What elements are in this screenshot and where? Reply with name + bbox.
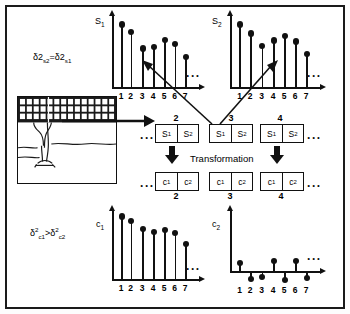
sample-box-4-cell-s1: S1 xyxy=(261,125,282,142)
chart-c1-y-axis xyxy=(112,211,114,280)
chart-s2-x-axis-arrow xyxy=(320,84,326,90)
chart-c1-point-7 xyxy=(183,241,189,247)
chart-c1-stem-2 xyxy=(131,221,133,279)
chart-c1-point-4 xyxy=(151,229,157,235)
sample-box-3-cell-s2: S2 xyxy=(231,125,252,142)
sample-box-2-cell-s2: S2 xyxy=(177,125,198,142)
chart-s1-tick-2: 2 xyxy=(125,91,137,101)
chart-s1-point-7 xyxy=(183,54,189,60)
chart-s1-stem-2 xyxy=(131,32,133,88)
chart-c2-y-axis-arrow xyxy=(227,205,233,211)
chart-s2-y-axis-arrow xyxy=(227,10,233,16)
chart-c1-stem-3 xyxy=(142,229,144,279)
chart-s1-stem-1 xyxy=(121,24,123,87)
variance-equality-label: δ2s2=δ2s1 xyxy=(33,52,71,64)
variance-top-term2: δ2 xyxy=(55,52,65,62)
chart-c2-point-4 xyxy=(271,258,277,264)
chart-s2-point-1 xyxy=(237,21,243,27)
variance-top-term1: δ2 xyxy=(33,52,43,62)
chart-s1-point-2 xyxy=(128,29,134,35)
sample-vector-box-3[interactable]: S1 S2 xyxy=(209,124,253,143)
chart-c1-point-2 xyxy=(128,218,134,224)
chart-c1-axis-label: c1 xyxy=(96,219,104,231)
chart-s1-point-1 xyxy=(119,21,125,27)
chart-c1-stem-4 xyxy=(153,232,155,280)
transformation-label: Transformation xyxy=(190,153,254,164)
chart-s2-tick-7: 7 xyxy=(300,91,312,101)
sample-box-3-cell-s1: S1 xyxy=(210,125,231,142)
sample-row-right-ellipsis: ... xyxy=(307,128,322,142)
variance-bottom-sub2: c2 xyxy=(59,233,66,240)
coefficient-box-index-4: 4 xyxy=(259,191,303,201)
sample-row-left-ellipsis: ... xyxy=(140,128,155,142)
coefficient-box-2-cell-c2: c2 xyxy=(177,173,198,190)
chart-c1-tick-7: 7 xyxy=(179,283,191,293)
sample-vector-box-4[interactable]: S1 S2 xyxy=(260,124,304,143)
chart-c1-stem-6 xyxy=(175,233,177,280)
chart-s1-y-axis xyxy=(112,16,114,88)
chart-c1-stem-1 xyxy=(121,216,123,279)
sample-box-4-cell-s2: S2 xyxy=(282,125,303,142)
chart-s2-axis-label: S2 xyxy=(212,16,222,28)
chart-s2-point-2 xyxy=(248,30,254,36)
chart-c2-x-axis-arrow xyxy=(320,268,326,274)
chart-c2-point-3 xyxy=(259,274,265,280)
chart-s2-point-5 xyxy=(282,33,288,39)
chart-c1-x-axis-arrow xyxy=(199,276,205,282)
chart-c1-ellipsis: ... xyxy=(186,259,201,273)
chart-c1-tick-2: 2 xyxy=(125,283,137,293)
chart-c1-y-axis-arrow xyxy=(109,205,115,211)
chart-c1-stem-5 xyxy=(164,230,166,280)
sample-box-2-cell-s1: S1 xyxy=(156,125,177,142)
chart-c2-tick-7: 7 xyxy=(300,285,312,295)
coefficient-box-3-cell-c2: c2 xyxy=(231,173,252,190)
chart-c1-point-6 xyxy=(172,230,178,236)
chart-s1-point-3 xyxy=(140,45,146,51)
chart-s1-point-6 xyxy=(172,41,178,47)
sample-box-index-4: 4 xyxy=(258,113,302,123)
sample-box-index-2: 2 xyxy=(154,113,198,123)
chart-c2-point-1 xyxy=(237,260,243,266)
chart-s2-stem-6 xyxy=(295,41,297,87)
coefficient-box-index-3: 3 xyxy=(208,191,252,201)
sample-box-index-3: 3 xyxy=(209,113,253,123)
coefficient-box-index-2: 2 xyxy=(154,191,198,201)
chart-c2-tick-3: 3 xyxy=(256,285,268,295)
coefficient-vector-box-3[interactable]: c1 c2 xyxy=(209,172,253,191)
chart-c2-ellipsis: ... xyxy=(307,249,322,263)
chart-c1-x-axis xyxy=(112,279,201,281)
figure-root: δ2s2=δ2s1 δ2c1>δ2c2 xyxy=(0,0,350,314)
chart-s2-ellipsis: ... xyxy=(307,66,322,80)
coefficient-row-right-ellipsis: ... xyxy=(307,176,322,190)
chart-s2-point-3 xyxy=(259,43,265,49)
chart-s2-point-7 xyxy=(304,51,310,57)
chart-c2-tick-2: 2 xyxy=(244,285,256,295)
coefficient-box-2-cell-c1: c1 xyxy=(156,173,177,190)
chart-c1: c1 ... 1 2 3 4 5 6 7 xyxy=(104,205,209,300)
chart-s1-point-4 xyxy=(151,44,157,50)
variance-inequality-label: δ2c1>δ2c2 xyxy=(30,226,65,240)
chart-c2-x-axis xyxy=(230,271,322,273)
chart-c2-point-2 xyxy=(248,276,254,282)
sample-vector-box-2[interactable]: S1 S2 xyxy=(155,124,199,143)
coefficient-vector-box-2[interactable]: c1 c2 xyxy=(155,172,199,191)
variance-top-sub2: s1 xyxy=(65,57,72,64)
coefficient-box-3-cell-c1: c1 xyxy=(210,173,231,190)
chart-s1-axis-label: S1 xyxy=(95,16,105,28)
chart-s1-y-axis-arrow xyxy=(109,10,115,16)
chart-s2-point-6 xyxy=(293,38,299,44)
chart-c1-point-1 xyxy=(119,213,125,219)
chart-s2-stem-5 xyxy=(284,36,286,88)
coefficient-vector-box-4[interactable]: c1 c2 xyxy=(260,172,304,191)
chart-c2-point-7 xyxy=(304,275,310,281)
chart-c2: c2 ... 1 2 3 4 5 6 7 xyxy=(222,205,334,300)
chart-s2-point-4 xyxy=(271,37,277,43)
chart-s1-point-5 xyxy=(162,37,168,43)
chart-c1-point-5 xyxy=(162,227,168,233)
chart-c2-axis-label: c2 xyxy=(212,219,220,231)
chart-c2-y-axis xyxy=(230,211,232,272)
chart-c1-point-3 xyxy=(140,226,146,232)
chart-c2-point-5 xyxy=(282,277,288,283)
chart-c2-point-6 xyxy=(293,258,299,264)
coefficient-box-4-cell-c1: c1 xyxy=(261,173,282,190)
